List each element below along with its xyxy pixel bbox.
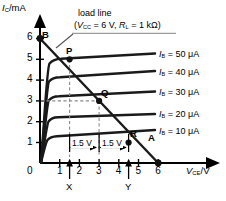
y-tick-5: 5: [27, 53, 33, 63]
load-line-caption-title: load line: [78, 9, 112, 18]
x-tick-6: 6: [155, 166, 161, 176]
y-axis-label: IC/mA: [2, 3, 26, 14]
y-tick-0: 0: [27, 166, 33, 176]
curve-ib-20ua: [41, 114, 155, 163]
curve-ib-10ua: [41, 130, 155, 163]
x-tick-4: 4: [116, 166, 122, 176]
point-label-b: B: [42, 30, 49, 40]
x-axis-label: VCE/V: [186, 166, 210, 177]
x-tick-3: 3: [96, 166, 102, 176]
x-tick-1: 1: [57, 166, 63, 176]
y-tick-3: 3: [27, 95, 33, 105]
point-q-dot: [96, 98, 102, 104]
curve-label-ib-50ua: IB = 50 μA: [159, 50, 199, 60]
y-tick-1: 1: [27, 137, 33, 147]
x-tick-5: 5: [136, 166, 142, 176]
span-label-left: 1.5 V: [71, 139, 93, 148]
axis-marker-label-y: Y: [125, 182, 131, 192]
y-tick-2: 2: [27, 116, 33, 126]
span-label-right: 1.5 V: [101, 139, 123, 148]
x-tick-2: 2: [77, 166, 83, 176]
point-label-r: R: [130, 129, 137, 139]
y-tick-6: 6: [27, 32, 33, 42]
load-line-caption-params: (VCC = 6 V, RL = 1 kΩ): [74, 21, 161, 31]
axis-marker-label-x: X: [66, 182, 72, 192]
point-label-q: Q: [101, 88, 108, 98]
curve-ib-50ua: [41, 54, 155, 163]
point-label-p: P: [66, 46, 72, 56]
curve-label-ib-40ua: IB = 40 μA: [159, 68, 199, 78]
y-tick-4: 4: [27, 74, 33, 84]
point-p-dot: [67, 56, 73, 62]
transistor-output-characteristics-chart: IC/mA VCE/V load line (VCC = 6 V, RL = 1…: [0, 0, 226, 201]
curve-label-ib-10ua: IB = 10 μA: [159, 127, 199, 137]
curve-label-ib-30ua: IB = 30 μA: [159, 88, 199, 98]
curve-label-ib-20ua: IB = 20 μA: [159, 110, 199, 120]
point-label-a: A: [148, 133, 155, 143]
characteristic-curves: [41, 54, 155, 163]
